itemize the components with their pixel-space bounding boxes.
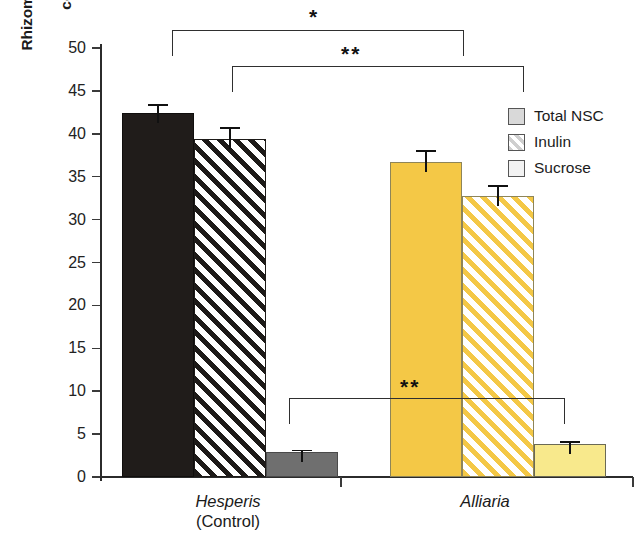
bar-inulin-alliaria	[462, 196, 534, 477]
y-axis-tick-label: 45	[40, 82, 86, 100]
bar-chart: Rhizome carbohydrate content (%) 0510152…	[0, 0, 641, 540]
y-axis-tick-label: 20	[40, 296, 86, 314]
bar-total-nsc-hesperis	[122, 113, 194, 477]
y-axis-tick-label: 15	[40, 339, 86, 357]
y-axis-line	[100, 44, 102, 481]
significance-bracket-total-nsc	[172, 30, 464, 56]
legend-item-sucrose: Sucrose	[508, 156, 604, 180]
legend-swatch-total-nsc-icon	[508, 108, 525, 125]
y-axis-tick-label: 30	[40, 211, 86, 229]
error-bar-cap	[220, 127, 240, 129]
significance-star-sucrose: **	[400, 376, 420, 397]
legend-swatch-inulin-icon	[508, 134, 525, 151]
y-axis-tick-label: 25	[40, 254, 86, 272]
legend-item-inulin: Inulin	[508, 130, 604, 154]
error-bar-stem	[569, 441, 571, 454]
bar-total-nsc-alliaria	[390, 162, 462, 477]
legend-label-inulin: Inulin	[534, 133, 571, 151]
legend: Total NSC Inulin Sucrose	[508, 104, 604, 182]
error-bar-cap	[416, 150, 436, 152]
y-axis-title-line2: content (%)	[56, 0, 75, 118]
group-label-name-alliaria: Alliaria	[380, 492, 590, 512]
legend-label-sucrose: Sucrose	[534, 159, 591, 177]
significance-bracket-sucrose	[289, 398, 565, 424]
legend-label-total-nsc: Total NSC	[534, 107, 604, 125]
error-bar-stem	[497, 185, 499, 206]
y-axis-tick-label: 50	[40, 39, 86, 57]
y-axis-tick-label: 40	[40, 125, 86, 143]
error-bar-cap	[292, 450, 312, 452]
y-axis-title-line1: Rhizome carbohydrate	[17, 0, 36, 118]
significance-star-total-nsc: *	[309, 6, 319, 27]
group-label-name-hesperis: Hesperis	[118, 492, 338, 512]
legend-item-total-nsc: Total NSC	[508, 104, 604, 128]
y-axis-tick-label: 5	[40, 425, 86, 443]
x-axis-group-label-hesperis: Hesperis (Control)	[118, 492, 338, 532]
x-axis-tick-end	[632, 477, 634, 487]
error-bar-stem	[301, 450, 303, 463]
error-bar-stem	[229, 127, 231, 149]
bar-inulin-hesperis	[194, 139, 266, 477]
y-axis-tick-label: 35	[40, 168, 86, 186]
group-label-sub-hesperis: (Control)	[118, 512, 338, 532]
error-bar-cap	[488, 185, 508, 187]
x-axis-tick-mid	[340, 477, 342, 487]
y-axis-tick-label: 0	[40, 468, 86, 486]
error-bar-stem	[425, 150, 427, 172]
error-bar-cap	[148, 104, 168, 106]
legend-swatch-sucrose-icon	[508, 160, 525, 177]
y-axis-title: Rhizome carbohydrate content (%)	[0, 0, 95, 118]
y-axis-tick-label: 10	[40, 382, 86, 400]
error-bar-cap	[560, 441, 580, 443]
error-bar-stem	[157, 104, 159, 123]
significance-star-inulin: **	[341, 43, 361, 64]
significance-bracket-inulin	[232, 66, 524, 92]
x-axis-group-label-alliaria: Alliaria	[380, 492, 590, 512]
